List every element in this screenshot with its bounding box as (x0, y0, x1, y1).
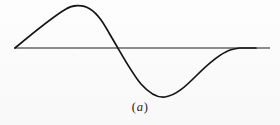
caption-letter: a (136, 100, 144, 114)
figure-container: (a) (0, 0, 280, 125)
figure-caption: (a) (0, 100, 280, 114)
waveform-curve-path (15, 6, 256, 97)
caption-close-paren: ) (144, 100, 148, 114)
